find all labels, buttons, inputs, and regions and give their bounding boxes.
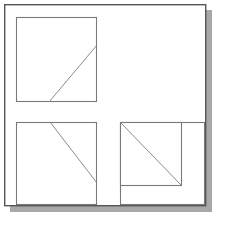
bottom-left-square-group — [17, 122, 98, 205]
figure-canvas: Geometric diagram of three squares with … — [0, 0, 225, 231]
bottom-left-square — [17, 123, 97, 205]
figure-svg: Geometric diagram of three squares with … — [0, 0, 225, 231]
top-left-square-group — [17, 18, 98, 103]
bottom-right-square-group — [121, 123, 205, 205]
